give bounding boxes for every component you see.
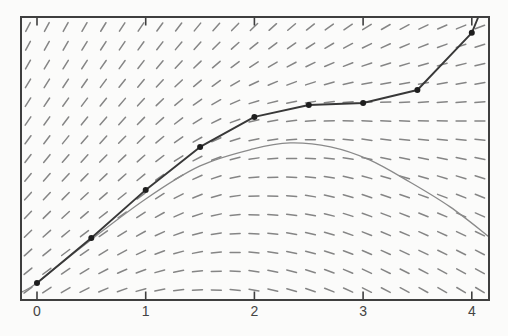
figure-slope-field-plot: 0 1 2 3 4 — [0, 0, 508, 336]
x-axis-labels: 0 1 2 3 4 — [33, 303, 476, 319]
solution-point-dot — [34, 280, 40, 286]
euler-approximation-polyline — [34, 17, 478, 286]
solution-point-dot — [360, 100, 366, 106]
solution-point-dot — [469, 30, 475, 36]
x-tick-label-1: 1 — [142, 303, 150, 319]
x-tick-label-2: 2 — [251, 303, 259, 319]
slope-field — [24, 23, 485, 293]
solution-point-dot — [143, 187, 149, 193]
plot-canvas: 0 1 2 3 4 — [0, 0, 508, 336]
solution-point-dot — [414, 87, 420, 93]
solution-point-dot — [306, 102, 312, 108]
x-tick-label-3: 3 — [359, 303, 367, 319]
x-tick-label-4: 4 — [468, 303, 476, 319]
solution-point-dot — [88, 235, 94, 241]
solution-point-dot — [197, 144, 203, 150]
page: { "canvas": {"width": 508, "height": 336… — [0, 0, 508, 336]
x-tick-label-0: 0 — [33, 303, 41, 319]
solution-point-dot — [251, 114, 257, 120]
